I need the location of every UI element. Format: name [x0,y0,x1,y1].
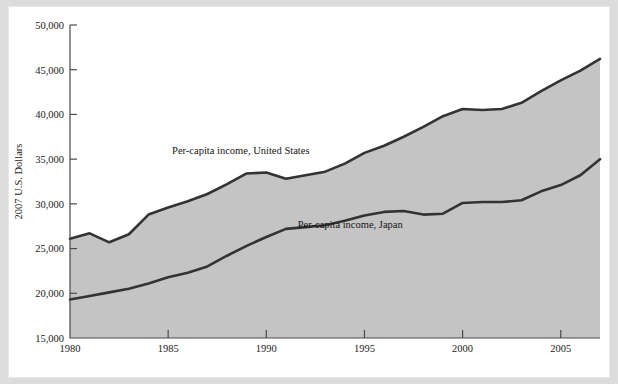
annotation-united-states: Per-capita income, United States [172,145,309,156]
x-tick-label: 1995 [354,343,375,354]
y-tick-label: 35,000 [35,154,64,165]
y-tick-label: 40,000 [35,109,64,120]
area-chart: 15,00020,00025,00030,00035,00040,00045,0… [0,0,618,384]
x-tick-label: 1980 [60,343,81,354]
chart-container: 15,00020,00025,00030,00035,00040,00045,0… [0,0,618,384]
y-tick-label: 50,000 [35,20,64,31]
x-tick-label: 2000 [452,343,473,354]
y-tick-label: 20,000 [35,288,64,299]
y-tick-label: 45,000 [35,65,64,76]
y-axis-title: 2007 U.S. Dollars [13,144,24,220]
annotation-japan: Per-capita income, Japan [298,219,404,230]
x-tick-label: 2005 [550,343,571,354]
y-tick-label: 30,000 [35,199,64,210]
x-tick-label: 1985 [158,343,179,354]
x-tick-label: 1990 [256,343,277,354]
y-tick-label: 25,000 [35,243,64,254]
figure-frame: 15,00020,00025,00030,00035,00040,00045,0… [0,0,618,384]
